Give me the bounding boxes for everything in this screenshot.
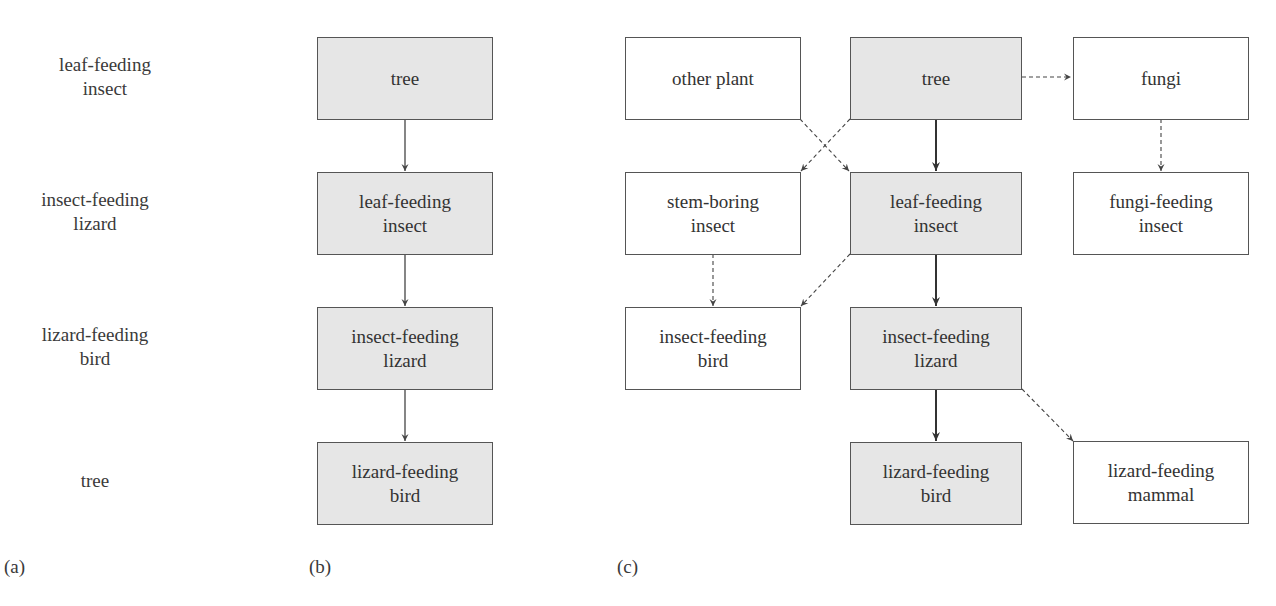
- node-fungi-feeding-insect: fungi-feeding insect: [1073, 172, 1249, 255]
- edge-other-leaf: [800, 119, 849, 171]
- node-tree: tree: [850, 37, 1022, 120]
- node-b-lizard-feeding-bird: lizard-feeding bird: [317, 442, 493, 525]
- node-lizard-feeding-mammal: lizard-feeding mammal: [1073, 441, 1249, 524]
- node-lizard-feeding-bird: lizard-feeding bird: [850, 442, 1022, 525]
- node-fungi: fungi: [1073, 37, 1249, 120]
- edge-tree-stem: [801, 119, 850, 171]
- node-leaf-feeding-insect: leaf-feeding insect: [850, 172, 1022, 255]
- panel-b-caption: (b): [309, 556, 331, 578]
- edge-leaf-bird: [801, 254, 850, 306]
- node-b-insect-feeding-lizard: insect-feeding lizard: [317, 307, 493, 390]
- edge-lizard-mammal: [1022, 389, 1073, 441]
- node-stem-boring-insect: stem-boring insect: [625, 172, 801, 255]
- node-insect-feeding-bird: insect-feeding bird: [625, 307, 801, 390]
- node-other-plant: other plant: [625, 37, 801, 120]
- panel-c-caption: (c): [617, 556, 638, 578]
- node-b-leaf-feeding-insect: leaf-feeding insect: [317, 172, 493, 255]
- node-insect-feeding-lizard: insect-feeding lizard: [850, 307, 1022, 390]
- node-b-tree: tree: [317, 37, 493, 120]
